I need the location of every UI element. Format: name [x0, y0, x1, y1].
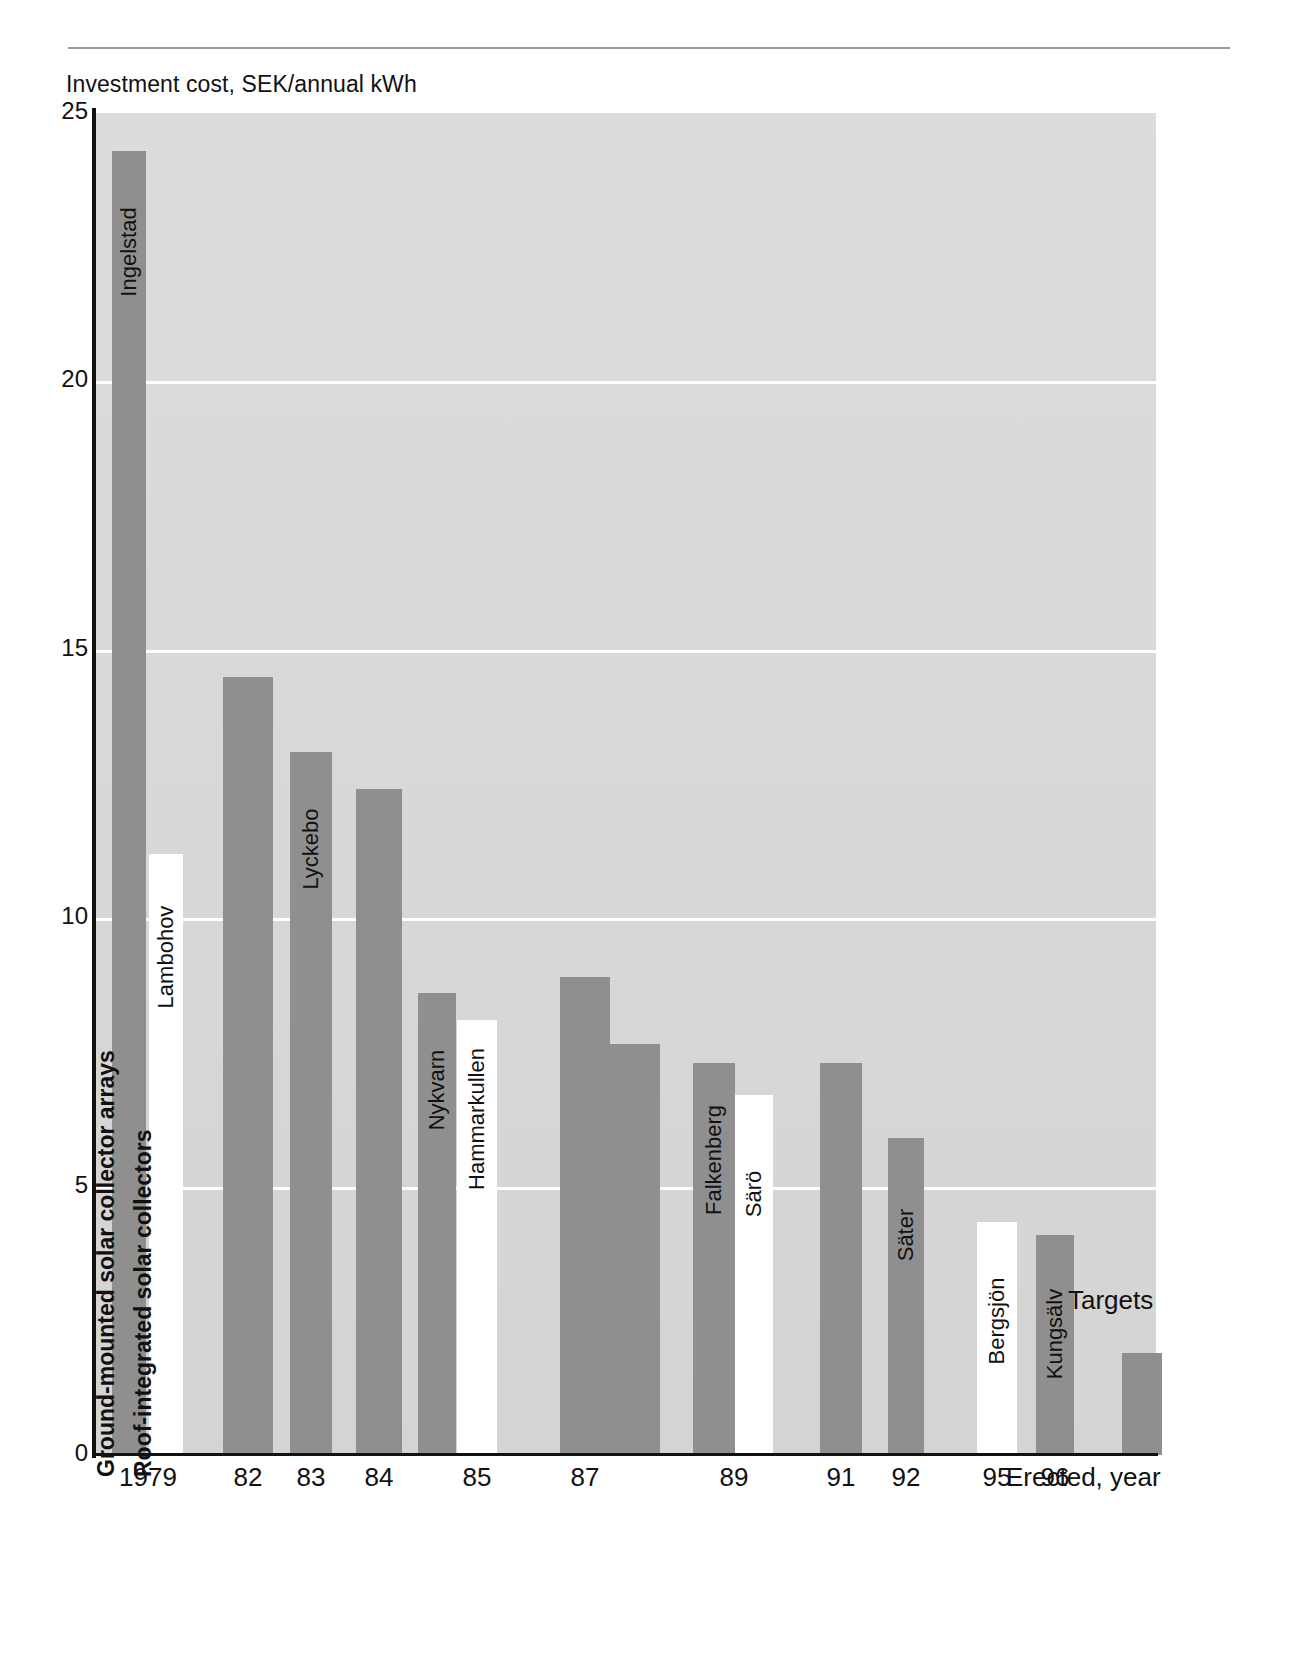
bar-label: Nykvarn: [424, 1050, 450, 1131]
x-axis-line: [92, 1453, 1158, 1456]
bar-nykvarn: Nykvarn: [418, 993, 456, 1455]
bar-label: Lambohov: [153, 905, 179, 1008]
page-top-rule: [68, 47, 1230, 49]
plot-area: IngelstadLambohovLyckeboNykvarnHammarkul…: [96, 113, 1156, 1455]
bar-lyckebo: Lyckebo: [290, 752, 332, 1455]
y-tick-label: 25: [28, 97, 88, 125]
bar-bergsj-n: Bergsjön: [977, 1222, 1017, 1456]
x-axis-caption: Erected, year: [1006, 1462, 1161, 1493]
bar-unlabeled: [610, 1044, 660, 1455]
x-tick-label: 85: [437, 1462, 517, 1493]
bar-unlabeled: [820, 1063, 862, 1455]
y-axis-title: Investment cost, SEK/annual kWh: [66, 71, 417, 98]
y-tick-label: 10: [28, 902, 88, 930]
gridline-20: [96, 381, 1156, 384]
bar-label: Falkenberg: [701, 1105, 727, 1215]
x-tick-label: 87: [545, 1462, 625, 1493]
y-tick-label: 15: [28, 634, 88, 662]
x-tick-label: 92: [866, 1462, 946, 1493]
x-tick-label: 89: [694, 1462, 774, 1493]
bar-kungs-lv: Kungsälv: [1036, 1235, 1074, 1455]
bar-label: Bergsjön: [984, 1277, 1010, 1364]
legend-label-ground-mounted: Ground-mounted solar collector arrays: [93, 1050, 120, 1477]
y-tick-label: 5: [28, 1171, 88, 1199]
chart-page: Investment cost, SEK/annual kWh Ingelsta…: [0, 0, 1290, 1663]
bar-label: Särö: [741, 1171, 767, 1217]
legend-label-roof-integrated: Roof-integrated solar collectors: [130, 1129, 157, 1477]
bar-unlabeled: [1162, 1321, 1202, 1455]
bar-s-r-: Särö: [735, 1095, 773, 1455]
bar-unlabeled: [356, 789, 402, 1455]
bar-label: Hammarkullen: [464, 1048, 490, 1190]
bar-unlabeled: [560, 977, 610, 1455]
gridline-15: [96, 650, 1156, 653]
x-tick-label: 84: [339, 1462, 419, 1493]
bar-falkenberg: Falkenberg: [693, 1063, 735, 1455]
bar-label: Kungsälv: [1042, 1289, 1068, 1380]
targets-annotation: Targets: [1068, 1285, 1153, 1316]
bar-label: Säter: [893, 1209, 919, 1262]
bar-label: Lyckebo: [298, 808, 324, 889]
bar-unlabeled: [223, 677, 273, 1455]
y-tick-label: 20: [28, 365, 88, 393]
y-tick-label: 0: [28, 1439, 88, 1467]
bar-hammarkullen: Hammarkullen: [457, 1020, 497, 1455]
bar-unlabeled: [1122, 1353, 1162, 1455]
bar-s-ter: Säter: [888, 1138, 924, 1455]
bar-label: Ingelstad: [116, 207, 142, 296]
